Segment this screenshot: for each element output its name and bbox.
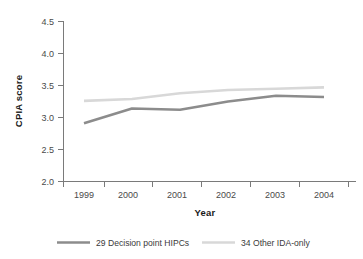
x-tick-label-2000: 2000 (118, 190, 138, 200)
y-tick-label-3-5: 3.5 (41, 81, 54, 91)
legend-label-other-ida-only: 34 Other IDA-only (241, 238, 310, 248)
chart-legend: 29 Decision point HIPCs 34 Other IDA-onl… (57, 238, 310, 248)
chart-figure: 4.5 4.0 3.5 3.0 2.5 2.0 CPIA score 1999 … (0, 0, 363, 259)
y-tick-label-4-0: 4.0 (41, 49, 54, 59)
y-tick-label-2-5: 2.5 (41, 145, 54, 155)
x-tick-label-2001: 2001 (167, 190, 187, 200)
x-tick-label-1999: 1999 (74, 190, 94, 200)
x-tick-label-2002: 2002 (216, 190, 236, 200)
series-group (84, 87, 324, 123)
legend-label-decision-point-hipcs: 29 Decision point HIPCs (96, 238, 189, 248)
line-chart: 4.5 4.0 3.5 3.0 2.5 2.0 CPIA score 1999 … (0, 0, 363, 259)
y-tick-label-4-5: 4.5 (41, 17, 54, 27)
x-axis-title: Year (195, 207, 216, 218)
series-line-other-ida-only (84, 87, 324, 100)
y-tick-label-2-0: 2.0 (41, 177, 54, 187)
y-tick-marks (58, 22, 64, 182)
y-tick-label-3-0: 3.0 (41, 113, 54, 123)
x-tick-label-2004: 2004 (314, 190, 334, 200)
x-tick-marks (64, 182, 349, 188)
y-axis-title: CPIA score (13, 75, 24, 127)
x-tick-label-2003: 2003 (265, 190, 285, 200)
